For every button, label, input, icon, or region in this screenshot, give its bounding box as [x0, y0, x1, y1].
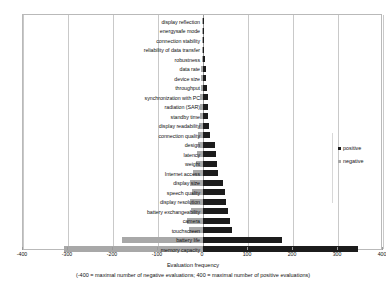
x-axis-title: Evaluation frequency [0, 262, 386, 268]
category-label: robustness [175, 55, 200, 65]
bar-row: battery exchangeability [23, 207, 381, 217]
category-label: weight [185, 159, 200, 169]
bar-row: display size [23, 179, 381, 189]
bar-positive [203, 75, 206, 81]
bar-positive [203, 170, 218, 176]
x-tick-label: -400 [17, 251, 27, 257]
bar-row: standby time [23, 112, 381, 122]
bar-positive [203, 142, 215, 148]
x-tick-mark [67, 247, 68, 250]
x-tick-label: -300 [62, 251, 72, 257]
category-label: Internet access [165, 169, 200, 179]
bar-row: energysafe mode [23, 27, 381, 37]
x-tick-label: 100 [243, 251, 252, 257]
bar-positive [203, 47, 204, 53]
plot-area: display reflectionenergysafe modeconnect… [22, 14, 382, 250]
category-label: display readability [159, 121, 200, 131]
legend-item-negative[interactable]: negative [338, 158, 384, 164]
bar-row: Internet access [23, 169, 381, 179]
category-label: connection stability [156, 36, 200, 46]
bar-row: display resolution [23, 198, 381, 208]
bar-row: connection quality [23, 131, 381, 141]
x-tick-label: 0 [201, 251, 204, 257]
x-tick-mark [382, 247, 383, 250]
legend-divider [332, 133, 333, 203]
x-tick-mark [292, 247, 293, 250]
legend-item-positive[interactable]: positive [338, 145, 384, 151]
bar-row: speech quality [23, 188, 381, 198]
legend-swatch-positive [338, 147, 341, 150]
bar-row: design [23, 141, 381, 151]
bar-positive [203, 132, 210, 138]
x-tick-mark [157, 247, 158, 250]
bar-row: robustness [23, 55, 381, 65]
bar-row: latency [23, 150, 381, 160]
x-tick-mark [22, 247, 23, 250]
legend-label: negative [343, 158, 363, 164]
bar-positive [203, 189, 225, 195]
category-label: display resolution [160, 197, 200, 207]
category-label: design [185, 140, 200, 150]
x-tick-label: 300 [333, 251, 342, 257]
category-label: synchronization with PC [145, 93, 200, 103]
bar-positive [203, 123, 209, 129]
bar-row: touchscreen [23, 226, 381, 236]
bar-rows: display reflectionenergysafe modeconnect… [23, 17, 381, 247]
bar-positive [203, 208, 228, 214]
bar-positive [203, 218, 230, 224]
legend: positivenegative [338, 145, 384, 171]
bar-row: radiation (SAR) [23, 103, 381, 113]
category-label: battery life [176, 235, 200, 245]
bar-row: reliability of data transfer [23, 46, 381, 56]
x-tick-label: 400 [378, 251, 386, 257]
category-label: data rate [180, 64, 200, 74]
bar-row: battery life [23, 236, 381, 246]
category-label: throughput [175, 83, 200, 93]
bar-positive [203, 28, 204, 34]
bar-row: display reflection [23, 17, 381, 27]
category-label: energysafe mode [160, 26, 200, 36]
bar-positive [203, 237, 282, 243]
bar-row: weight [23, 160, 381, 170]
bar-row: camera [23, 217, 381, 227]
bar-positive [203, 151, 216, 157]
x-axis-subtitle: (-400 = maximal number of negative evalu… [0, 272, 386, 278]
category-label: latency [184, 150, 200, 160]
legend-label: positive [343, 145, 361, 151]
category-label: reliability of data transfer [144, 45, 200, 55]
x-tick-label: 200 [288, 251, 297, 257]
bar-positive [203, 94, 208, 100]
bar-positive [203, 199, 226, 205]
bar-row: display readability [23, 122, 381, 132]
x-tick-label: -100 [152, 251, 162, 257]
bar-row: data rate [23, 65, 381, 75]
bar-positive [203, 37, 204, 43]
bar-row: device size [23, 74, 381, 84]
category-label: standby time [171, 112, 200, 122]
evaluation-frequency-chart: display reflectionenergysafe modeconnect… [0, 0, 386, 293]
x-tick-label: -200 [107, 251, 117, 257]
gridline-400 [383, 15, 384, 249]
x-tick-mark [247, 247, 248, 250]
bar-positive [203, 85, 207, 91]
category-label: battery exchangeability [147, 207, 200, 217]
bar-positive [203, 56, 205, 62]
x-tick-mark [337, 247, 338, 250]
category-label: speech quality [167, 188, 200, 198]
legend-swatch-negative [338, 160, 341, 163]
category-label: device size [174, 74, 200, 84]
bar-positive [203, 113, 208, 119]
bar-positive [203, 180, 223, 186]
bar-row: synchronization with PC [23, 93, 381, 103]
category-label: connection quality [158, 131, 200, 141]
bar-row: connection stability [23, 36, 381, 46]
category-label: display size [173, 178, 200, 188]
category-label: radiation (SAR) [165, 102, 200, 112]
bar-positive [203, 18, 204, 24]
bar-positive [203, 104, 208, 110]
x-tick-mark [112, 247, 113, 250]
bar-row: throughput [23, 84, 381, 94]
category-label: display reflection [161, 17, 200, 27]
category-label: touchscreen [172, 226, 200, 236]
bar-positive [203, 66, 206, 72]
